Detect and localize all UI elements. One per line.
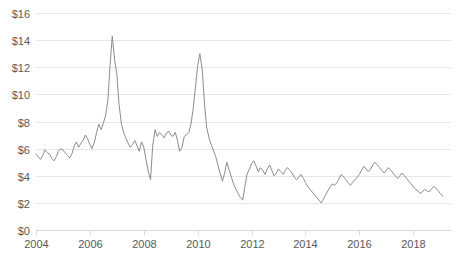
x-axis-tick-label: 2016 <box>347 238 371 250</box>
y-axis-tick-label: $16 <box>12 8 30 20</box>
chart-container: $0$2$4$6$8$10$12$14$16 20042006200820102… <box>0 0 459 266</box>
x-axis-tick-labels: 20042006200820102012201420162018 <box>24 238 425 250</box>
x-axis-tick-label: 2014 <box>293 238 317 250</box>
x-axis-tick-marks <box>37 231 414 235</box>
x-axis-tick-label: 2018 <box>401 238 425 250</box>
y-axis-tick-label: $12 <box>12 62 30 74</box>
y-axis-tick-label: $4 <box>18 171 30 183</box>
line-chart: $0$2$4$6$8$10$12$14$16 20042006200820102… <box>0 0 459 266</box>
x-axis-tick-label: 2010 <box>186 238 210 250</box>
x-axis-tick-label: 2004 <box>24 238 48 250</box>
y-axis-tick-label: $2 <box>18 198 30 210</box>
data-series-line <box>36 36 443 203</box>
y-axis-tick-label: $10 <box>12 89 30 101</box>
y-axis-tick-label: $6 <box>18 144 30 156</box>
y-axis-tick-label: $8 <box>18 117 30 129</box>
y-axis-tick-label: $0 <box>18 225 30 237</box>
y-axis-tick-label: $14 <box>12 35 30 47</box>
x-axis-tick-label: 2008 <box>132 238 156 250</box>
y-axis-tick-labels: $0$2$4$6$8$10$12$14$16 <box>12 8 30 237</box>
x-axis-tick-label: 2012 <box>240 238 264 250</box>
x-axis-tick-label: 2006 <box>78 238 102 250</box>
